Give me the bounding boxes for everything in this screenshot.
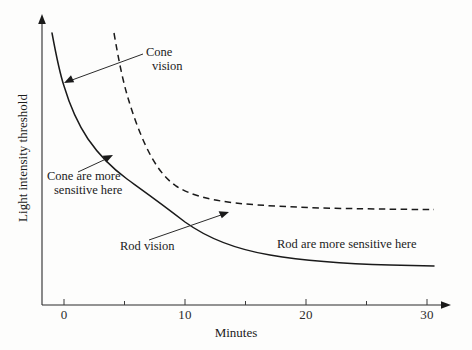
x-tick-label-0: 0 — [48, 307, 80, 323]
x-tick-label-10: 10 — [169, 307, 201, 323]
annotation-rod-sensitive-text: Rod are more sensitive here — [277, 238, 417, 252]
x-tick-label-20: 20 — [290, 307, 322, 323]
y-axis-title: Light intensity threshold — [15, 78, 31, 238]
annotation-rod-vision: Rod vision — [120, 240, 175, 254]
annotation-cone-vision-line1: Cone — [146, 46, 183, 60]
annotation-rod-vision-text: Rod vision — [120, 240, 175, 254]
chart-figure: 0 10 20 30 Minutes Light intensity thres… — [0, 0, 472, 350]
annotation-rod-are-more-sensitive-here: Rod are more sensitive here — [277, 238, 417, 252]
annotation-cone-vision-line2: vision — [146, 60, 183, 74]
annotation-cone-vision: Cone vision — [146, 46, 183, 73]
annotation-cone-sensitive-line1: Cone are more — [47, 170, 122, 184]
x-axis-title: Minutes — [0, 325, 472, 341]
x-tick-label-30: 30 — [411, 307, 443, 323]
leader-rod-vision-arrowhead — [219, 211, 229, 218]
curve-rod-vision — [52, 33, 434, 266]
leader-cone-vision-arrowhead — [64, 75, 74, 83]
annotation-cone-are-more-sensitive-here: Cone are more sensitive here — [47, 170, 122, 197]
annotation-cone-sensitive-line2: sensitive here — [47, 184, 122, 198]
y-axis-arrowhead — [38, 14, 46, 24]
leader-cone-vision — [72, 54, 143, 80]
